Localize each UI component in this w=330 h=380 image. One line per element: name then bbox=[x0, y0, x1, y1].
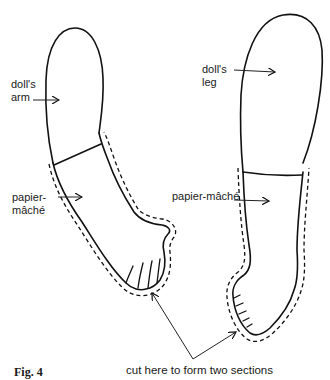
doll-leg bbox=[227, 14, 322, 341]
arm-seam-line bbox=[54, 144, 101, 165]
doll-arm bbox=[46, 28, 176, 296]
arm-finger bbox=[148, 261, 152, 288]
leg-toe bbox=[243, 318, 249, 321]
arm-papier-mache-label: papier- mâché bbox=[12, 191, 46, 217]
arm-finger bbox=[126, 266, 133, 283]
cut-instruction: cut here to form two sections bbox=[126, 364, 273, 377]
leg-toe bbox=[234, 295, 240, 298]
leg-label: doll's leg bbox=[202, 63, 227, 89]
leg-label-arrow bbox=[234, 70, 275, 72]
cut-arrow-arm bbox=[152, 293, 193, 359]
leg-upper-outline bbox=[241, 14, 323, 172]
leg-toe bbox=[236, 303, 243, 306]
leg-papier-mache-label: papier-mâché bbox=[172, 190, 239, 203]
arm-label: doll's arm bbox=[11, 78, 36, 104]
cut-arrow-leg bbox=[193, 332, 236, 359]
leg-toe bbox=[247, 324, 252, 327]
arm-cut-line bbox=[49, 132, 176, 296]
leg-seam-line bbox=[243, 172, 302, 175]
figure-caption: Fig. 4 bbox=[14, 365, 43, 380]
leg-toe bbox=[239, 311, 246, 314]
arm-papier-mache-outline bbox=[53, 133, 170, 290]
arm-finger bbox=[138, 263, 143, 288]
arm-upper-outline bbox=[46, 28, 103, 163]
